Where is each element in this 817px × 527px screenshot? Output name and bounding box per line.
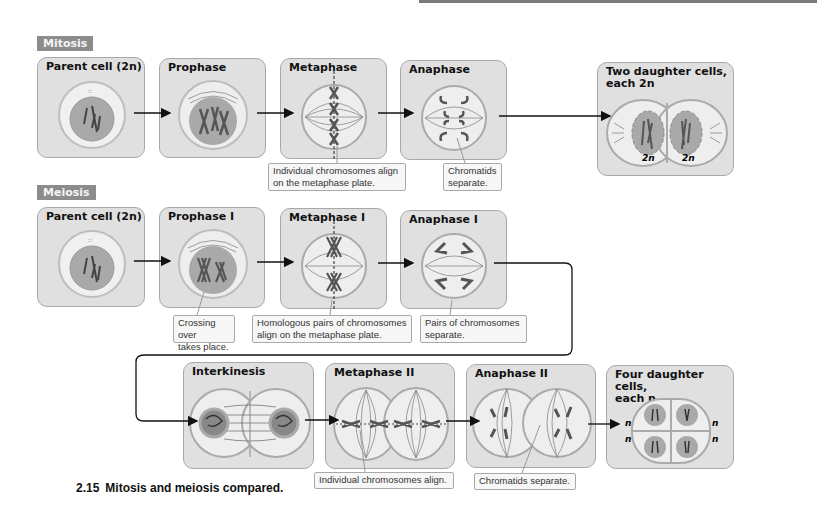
figure-number: 2.15 — [76, 481, 99, 495]
meiosis-parent-cell-panel: Parent cell (2n) :: — [37, 207, 145, 307]
prophase-i-cell-icon — [160, 208, 266, 309]
svg-text:::: :: — [88, 236, 92, 243]
anaphase-i-cell-icon — [401, 211, 508, 310]
metaphase-cell-icon — [281, 59, 388, 160]
mitosis-prophase-panel: Prophase — [159, 58, 266, 158]
interkinesis-cell-icon — [184, 363, 315, 470]
meiosis-four-daughter-cells-panel: Four daughter cells, each n n n n n — [606, 365, 734, 469]
ploidy-label: 2n — [682, 153, 695, 163]
callout-metaphase: Individual chromosomes align on the meta… — [268, 163, 406, 191]
callout-anaphase: Chromatids separate. — [443, 163, 502, 191]
prophase-cell-icon — [160, 59, 267, 159]
mitosis-label: Mitosis — [37, 36, 93, 51]
ploidy-label: n — [712, 418, 718, 428]
meiosis-interkinesis-panel: Interkinesis — [183, 362, 314, 469]
mitosis-metaphase-panel: Metaphase — [280, 58, 387, 159]
meiosis-anaphase-ii-panel: Anaphase II — [466, 364, 596, 468]
parent-cell-icon: :: — [38, 58, 146, 159]
meiosis-metaphase-i-panel: Metaphase I — [280, 208, 387, 309]
ploidy-label: n — [625, 418, 631, 428]
metaphase-i-cell-icon — [281, 209, 388, 310]
figure-caption: 2.15Mitosis and meiosis compared. — [76, 481, 283, 495]
figure-caption-text: Mitosis and meiosis compared. — [105, 481, 283, 495]
callout-homologous-pairs: Homologous pairs of chromosomes align on… — [252, 315, 412, 343]
meiosis-anaphase-i-panel: Anaphase I — [400, 210, 507, 309]
svg-text:::: :: — [88, 87, 92, 94]
anaphase-ii-cell-icon — [467, 365, 597, 469]
top-rule — [419, 0, 817, 3]
mitosis-two-daughter-cells-panel: Two daughter cells, each 2n 2n 2n — [597, 62, 734, 176]
parent-cell-icon: :: — [38, 208, 146, 308]
mitosis-parent-cell-panel: Parent cell (2n) :: — [37, 57, 145, 158]
anaphase-cell-icon — [401, 61, 508, 161]
mitosis-anaphase-panel: Anaphase — [400, 60, 507, 160]
metaphase-ii-cell-icon — [326, 364, 456, 470]
callout-pairs-separate: Pairs of chromosomes separate. — [420, 315, 527, 343]
meiosis-label: Meiosis — [37, 185, 96, 200]
ploidy-label: 2n — [642, 153, 655, 163]
two-daughter-cells-icon — [598, 63, 735, 177]
meiosis-prophase-i-panel: Prophase I — [159, 207, 265, 308]
ploidy-label: n — [712, 434, 718, 444]
callout-crossing-over: Crossing over takes place. — [173, 315, 235, 343]
callout-individual-align: Individual chromosomes align. — [314, 472, 454, 489]
meiosis-metaphase-ii-panel: Metaphase II — [325, 363, 455, 469]
ploidy-label: n — [625, 434, 631, 444]
callout-chromatids-separate: Chromatids separate. — [474, 473, 576, 490]
